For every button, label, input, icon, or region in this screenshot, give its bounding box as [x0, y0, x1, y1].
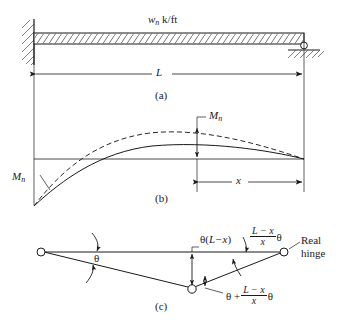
- panel-c-tag: (c): [155, 301, 167, 313]
- mid-moment-symbol: M: [209, 109, 218, 121]
- right-rotation-label: L − xxθ: [249, 226, 282, 247]
- left-moment-leader: [40, 175, 50, 190]
- deflection-theta: θ(: [200, 233, 209, 245]
- panel-a-tag: (a): [155, 90, 167, 102]
- mid-moment-label: Mn: [209, 110, 222, 123]
- hinge-rotation-label: θ +L − xxθ: [226, 285, 273, 306]
- left-plastic-hinge-circle: [37, 248, 45, 256]
- deflection-close: ): [227, 233, 231, 245]
- figure-linework: [0, 0, 339, 323]
- hinge-rotation-theta: θ: [268, 290, 273, 302]
- x-distance-text: x: [236, 174, 241, 186]
- mid-moment-subscript: n: [218, 114, 222, 123]
- hinge-angle-leader: [205, 288, 223, 293]
- real-hinge-line-2: hinge: [301, 247, 325, 259]
- structural-mechanism-figure: wn k/ft L (a) Mn Mn x (b) θ θ(L−x) L − x…: [0, 0, 339, 323]
- beam-hatch-fill: [35, 34, 304, 44]
- real-hinge-label: Realhinge: [301, 234, 325, 260]
- x-distance-label: x: [236, 175, 241, 187]
- real-hinge-leader: [289, 242, 300, 249]
- panel-b-tag: (b): [155, 193, 168, 205]
- mechanism-left-segment: [44, 252, 192, 288]
- deflection-expr: L−x: [209, 233, 227, 245]
- left-moment-subscript: n: [21, 175, 25, 184]
- real-hinge-line-1: Real: [301, 234, 321, 246]
- hinge-rotation-arc: [233, 259, 241, 276]
- required-moment-curve: [34, 132, 304, 206]
- load-units: k/ft: [162, 13, 177, 25]
- right-rotation-denominator: x: [261, 236, 265, 247]
- mid-plastic-hinge-circle: [188, 285, 196, 293]
- right-rotation-numerator: L − x: [252, 225, 274, 236]
- nominal-moment-curve: [34, 145, 304, 206]
- theta-rotation-label: θ: [94, 253, 99, 265]
- hinge-rotation-denominator: x: [252, 295, 256, 306]
- hinge-rotation-numerator: L − x: [243, 284, 265, 295]
- hinge-rotation-lead: θ +: [226, 290, 240, 302]
- left-fixed-support-hatch: [22, 20, 34, 65]
- theta-arc-upper: [92, 233, 98, 251]
- right-rotation-arc: [243, 237, 246, 252]
- deflection-label: θ(L−x): [200, 234, 231, 246]
- real-hinge-circle: [280, 248, 288, 256]
- hinge-rotation-fraction: L − xx: [241, 285, 267, 306]
- theta-arc-lower: [86, 265, 93, 283]
- distributed-load-label: wn k/ft: [148, 14, 177, 27]
- span-length-label: L: [156, 67, 162, 79]
- right-support-ground-hatch: [288, 50, 324, 58]
- right-rotation-fraction: L − xx: [250, 226, 276, 247]
- left-moment-symbol: M: [12, 170, 21, 182]
- load-subscript: n: [155, 18, 159, 27]
- span-length-text: L: [156, 66, 162, 78]
- right-rotation-theta: θ: [277, 231, 282, 243]
- left-moment-label: Mn: [12, 171, 25, 184]
